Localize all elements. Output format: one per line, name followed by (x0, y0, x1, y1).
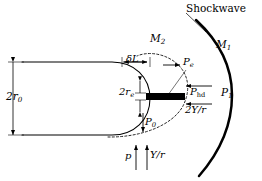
shockwave-diagram: Shockwave M1 M2 P1 Phd 2Y/r Pe P0 2re 2r… (0, 0, 262, 181)
exhaust-jet-bar (146, 93, 185, 100)
shockwave-leader-line (186, 13, 206, 32)
label-body-diameter: 2r0 (6, 91, 22, 103)
label-shockwave: Shockwave (186, 3, 246, 14)
exit-diameter-dimension (135, 81, 146, 112)
label-tension-single: Y/r (150, 150, 165, 160)
label-mach-freestream: M1 (216, 39, 231, 51)
label-pressure-hd: Phd (190, 87, 205, 98)
pe-connector-line (168, 70, 186, 95)
label-tension-double: 2Y/r (185, 105, 206, 115)
label-standoff-distance: δL (126, 54, 139, 64)
label-internal-pressure: p (125, 151, 131, 161)
label-pressure-stagnation: P0 (145, 117, 156, 128)
label-pressure-exit: Pe (183, 57, 194, 68)
label-pressure-freestream: P1 (221, 87, 233, 99)
label-mach-post-shock: M2 (150, 33, 165, 45)
label-exit-diameter: 2re (119, 87, 134, 98)
